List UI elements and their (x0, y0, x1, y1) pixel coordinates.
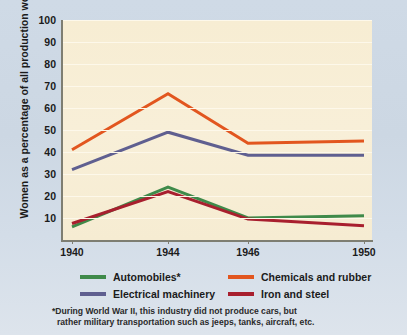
y-axis-tick-20: 20 (30, 191, 56, 202)
gridline (62, 152, 372, 153)
footnote-line-1: *During World War II, this industry did … (52, 306, 392, 317)
x-axis-tick-1950: 1950 (341, 246, 387, 258)
y-axis-tick-90: 90 (30, 37, 56, 48)
x-axis-tick-1946: 1946 (225, 246, 271, 258)
x-axis-tick-1944: 1944 (145, 246, 191, 258)
gridline (62, 64, 372, 65)
x-axis-line (61, 240, 373, 242)
legend-label: Chemicals and rubber (261, 271, 371, 283)
series-line-chemicals-and-rubber (72, 94, 364, 150)
legend-row: Automobiles*Chemicals and rubber (80, 268, 400, 285)
y-axis-tick-40: 40 (30, 147, 56, 158)
legend-label: Automobiles* (113, 271, 181, 283)
y-axis-tick-10: 10 (30, 213, 56, 224)
gridline (62, 130, 372, 131)
y-axis-tick-80: 80 (30, 59, 56, 70)
y-axis-tick-labels: 100908070605040302010 (26, 0, 56, 335)
legend-item-chemicals-and-rubber[interactable]: Chemicals and rubber (228, 271, 371, 283)
gridline (62, 174, 372, 175)
legend-item-iron-and-steel[interactable]: Iron and steel (228, 288, 329, 300)
x-axis-tick-mark-1946 (248, 240, 249, 244)
x-axis-tick-mark-1950 (364, 240, 365, 244)
chart-footnote: *During World War II, this industry did … (52, 306, 392, 329)
legend-swatch-icon (80, 292, 106, 296)
footnote-line-2: rather military transportation such as j… (52, 317, 392, 328)
y-axis-tick-50: 50 (30, 125, 56, 136)
y-axis-line (61, 20, 63, 241)
legend-item-electrical-machinery[interactable]: Electrical machinery (80, 288, 228, 300)
chart-legend: Automobiles*Chemicals and rubberElectric… (80, 268, 400, 302)
legend-item-automobiles[interactable]: Automobiles* (80, 271, 228, 283)
legend-label: Iron and steel (261, 288, 329, 300)
series-line-electrical-machinery (72, 132, 364, 169)
y-axis-tick-30: 30 (30, 169, 56, 180)
x-axis-tick-mark-1940 (72, 240, 73, 244)
series-line-automobiles (72, 187, 364, 227)
gridline (62, 86, 372, 87)
plot-area (62, 20, 372, 240)
y-axis-tick-100: 100 (30, 15, 56, 26)
y-axis-tick-70: 70 (30, 81, 56, 92)
legend-swatch-icon (228, 292, 254, 296)
y-axis-tick-60: 60 (30, 103, 56, 114)
legend-swatch-icon (80, 275, 106, 279)
chart-figure: Women as a percentage of all production … (0, 0, 407, 335)
gridline (62, 218, 372, 219)
legend-label: Electrical machinery (113, 288, 215, 300)
gridline (62, 108, 372, 109)
x-axis-tick-mark-1944 (168, 240, 169, 244)
x-axis-tick-1940: 1940 (49, 246, 95, 258)
gridline (62, 20, 372, 21)
gridline (62, 42, 372, 43)
legend-swatch-icon (228, 275, 254, 279)
gridline (62, 196, 372, 197)
legend-row: Electrical machineryIron and steel (80, 285, 400, 302)
